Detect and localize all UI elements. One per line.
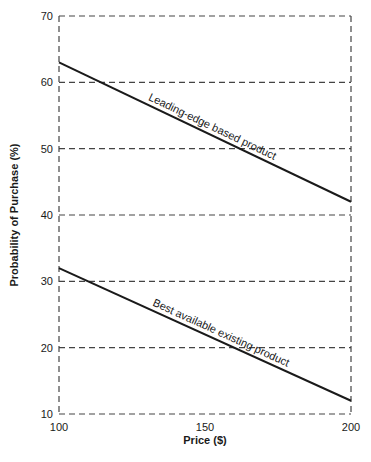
- y-tick-label: 40: [41, 209, 53, 221]
- series-labels: Leading-edge based productBest available…: [147, 91, 292, 369]
- series-line-2: [59, 268, 351, 401]
- x-tick-label: 100: [50, 421, 68, 433]
- y-tick-label: 50: [41, 143, 53, 155]
- y-axis-label: Probability of Purchase (%): [8, 143, 20, 286]
- data-series: [59, 62, 351, 400]
- series-label-2: Best available existing product: [151, 296, 291, 368]
- y-tick-label: 70: [41, 10, 53, 22]
- x-tick-label: 150: [196, 421, 214, 433]
- series-label-1: Leading-edge based product: [147, 91, 279, 162]
- y-tick-label: 20: [41, 342, 53, 354]
- x-axis-label: Price ($): [183, 434, 227, 446]
- series-line-1: [59, 62, 351, 201]
- y-axis-ticks: 10203040506070: [41, 10, 53, 420]
- x-axis-ticks: 100150200: [50, 421, 360, 433]
- y-tick-label: 60: [41, 76, 53, 88]
- y-tick-label: 30: [41, 275, 53, 287]
- y-tick-label: 10: [41, 408, 53, 420]
- x-tick-label: 200: [342, 421, 360, 433]
- grid-lines: [59, 16, 351, 414]
- line-chart: 10203040506070 100150200 Leading-edge ba…: [0, 0, 371, 462]
